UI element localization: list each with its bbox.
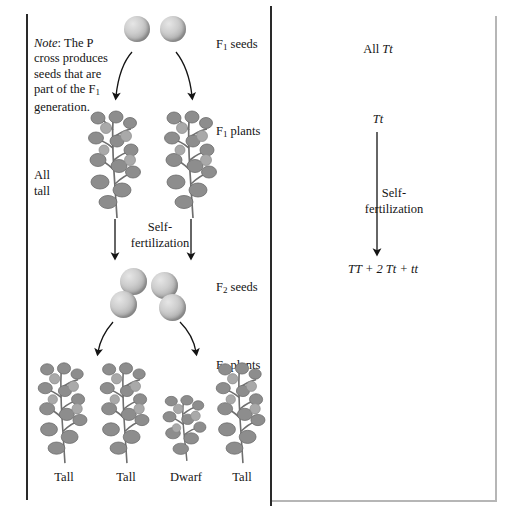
f2-seeds-label: F2 seeds — [216, 264, 258, 298]
f2-seed — [110, 291, 137, 318]
f2-plant-3-dwarf — [160, 392, 212, 464]
f2-plant-label-4: Tall — [216, 470, 268, 486]
right-self-fertilization-label: Self- fertilization — [352, 186, 436, 217]
left-self-fertilization-label: Self- fertilization — [124, 220, 196, 251]
note-text: Note: The P cross produces seeds that ar… — [34, 20, 120, 116]
left-panel-left-rule — [26, 14, 28, 500]
all-tall-label: All tall — [34, 168, 50, 199]
f2-plant-label-1: Tall — [38, 470, 90, 486]
right-panel-bottom-rule — [272, 500, 497, 502]
f1-plant-left — [86, 108, 146, 220]
right-panel-right-rule — [495, 16, 497, 502]
arrow-f1seed-right-to-plant — [176, 52, 192, 96]
arrow-f2seed-left-to-plants — [98, 322, 113, 352]
arrow-f2seed-right-to-plants — [180, 322, 196, 352]
note-tail: generation. — [34, 100, 90, 114]
f1-plants-label: F1 plants — [216, 108, 260, 142]
f2-plant-label-3: Dwarf — [158, 470, 214, 486]
f1-seed — [124, 16, 150, 42]
f2-seed — [159, 294, 186, 321]
f2-plant-label-2: Tall — [100, 470, 152, 486]
f2-plant-2 — [96, 360, 156, 465]
right-f2-ratio-label: TT + 2 Tt + tt — [318, 262, 448, 278]
f1-seeds-label: F1 seeds — [216, 21, 258, 55]
f1-seed — [160, 16, 186, 42]
note-subscript: 1 — [95, 87, 100, 97]
note-lead: Note — [34, 36, 58, 50]
right-all-genotype-label: All Tt — [318, 26, 438, 57]
f2-plant-1 — [34, 360, 94, 465]
f1-plant-right — [162, 108, 222, 220]
genetics-cross-figure: Note: The P cross produces seeds that ar… — [0, 0, 518, 522]
f2-plant-4 — [212, 360, 272, 465]
right-f1-genotype-label: Tt — [348, 112, 408, 128]
